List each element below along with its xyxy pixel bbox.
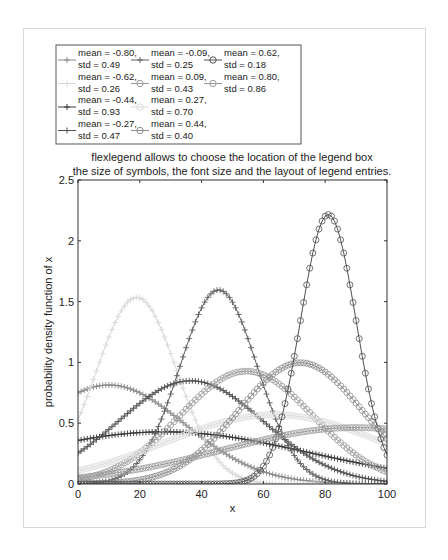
- x-tick-label: 0: [75, 488, 81, 500]
- x-tick-label: 100: [378, 488, 396, 500]
- svg-text:std = 0.70: std = 0.70: [151, 106, 193, 117]
- svg-text:std = 0.49: std = 0.49: [78, 59, 120, 70]
- svg-text:mean = 0.44,: mean = 0.44,: [151, 118, 207, 129]
- y-tick-label: 2.5: [59, 174, 74, 186]
- legend: mean = -0.80,std = 0.49mean = -0.62,std …: [56, 45, 301, 144]
- svg-text:mean = 0.62,: mean = 0.62,: [224, 47, 280, 58]
- svg-text:mean = -0.80,: mean = -0.80,: [78, 47, 137, 58]
- svg-text:std = 0.40: std = 0.40: [151, 130, 193, 141]
- y-tick-label: 1: [68, 356, 74, 368]
- svg-text:mean = 0.27,: mean = 0.27,: [151, 94, 207, 105]
- svg-text:std = 0.86: std = 0.86: [224, 83, 266, 94]
- y-axis-label: probability density function of x: [42, 256, 54, 407]
- y-tick-label: 0.5: [59, 417, 74, 429]
- chart-title-line: the size of symbols, the font size and t…: [73, 165, 392, 177]
- x-tick-label: 40: [195, 488, 207, 500]
- x-axis-label: x: [230, 502, 236, 514]
- svg-text:std = 0.43: std = 0.43: [151, 83, 193, 94]
- svg-text:mean = 0.80,: mean = 0.80,: [224, 71, 280, 82]
- svg-text:std = 0.18: std = 0.18: [224, 59, 266, 70]
- svg-text:std = 0.93: std = 0.93: [78, 106, 120, 117]
- svg-text:std = 0.25: std = 0.25: [151, 59, 193, 70]
- svg-text:mean = -0.62,: mean = -0.62,: [78, 71, 137, 82]
- svg-text:std = 0.26: std = 0.26: [78, 83, 120, 94]
- chart-title-line: flexlegend allows to choose the location…: [91, 151, 373, 163]
- x-tick-label: 80: [319, 488, 331, 500]
- x-tick-label: 20: [134, 488, 146, 500]
- y-tick-label: 2: [68, 235, 74, 247]
- svg-text:mean = 0.09,: mean = 0.09,: [151, 71, 207, 82]
- y-tick-label: 1.5: [59, 296, 74, 308]
- chart: flexlegend allows to choose the location…: [0, 0, 448, 560]
- svg-text:std = 0.47: std = 0.47: [78, 130, 120, 141]
- y-tick-label: 0: [68, 478, 74, 490]
- x-tick-label: 60: [257, 488, 269, 500]
- svg-text:mean = -0.44,: mean = -0.44,: [78, 94, 137, 105]
- svg-text:mean = -0.27,: mean = -0.27,: [78, 118, 137, 129]
- svg-text:mean = -0.09,: mean = -0.09,: [151, 47, 210, 58]
- plot-area: [75, 211, 390, 487]
